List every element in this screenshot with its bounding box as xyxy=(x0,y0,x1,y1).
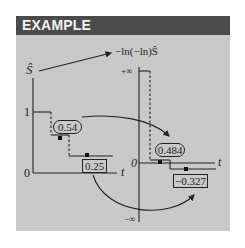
right-y-tick-minus-inf: −∞ xyxy=(124,215,136,224)
right-y-tick-0: 0 xyxy=(131,157,137,169)
right-point-2 xyxy=(184,167,188,171)
left-y-tick-0: 0 xyxy=(24,167,30,179)
callout-neg-0-327: −0.327 xyxy=(173,174,208,188)
transform-arrow-upper xyxy=(82,116,169,136)
right-y-axis-label: −ln(−ln)Ŝ xyxy=(115,46,158,57)
callout-0-484: 0.484 xyxy=(155,143,185,157)
left-y-tick-1: 1 xyxy=(24,106,30,118)
callout-0-25: 0.25 xyxy=(82,159,107,173)
left-y-axis-label: Ŝ xyxy=(26,63,33,76)
label-transform-arrow xyxy=(39,53,111,71)
left-x-axis-label: t xyxy=(121,166,124,178)
right-y-tick-plus-inf: +∞ xyxy=(121,67,133,76)
right-x-axis-label: t xyxy=(218,156,221,168)
left-point-2 xyxy=(85,153,89,157)
callout-0-54: 0.54 xyxy=(53,120,82,134)
right-point-1 xyxy=(158,160,162,164)
left-point-1 xyxy=(58,136,62,140)
transform-diagram xyxy=(0,0,245,248)
